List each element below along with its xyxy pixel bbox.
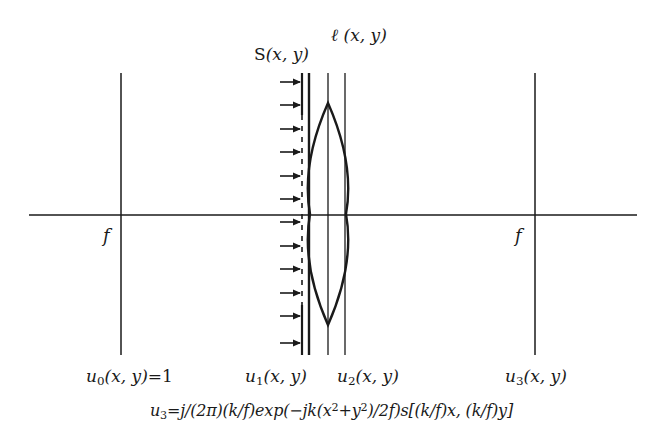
formula-sup1: 2 bbox=[332, 401, 339, 414]
source-label: S(x, y) bbox=[254, 46, 309, 63]
plane-lines bbox=[121, 73, 535, 355]
formula-part3: )/2f)s[(k/f)x, (k/f)y] bbox=[367, 401, 513, 420]
focal-length-right-label: f bbox=[515, 227, 522, 245]
u3-base: u bbox=[505, 366, 516, 386]
u1-label: u1(x, y) bbox=[245, 368, 307, 388]
lens-fourier-diagram: S(x, y) ℓ (x, y) f f u0(x, y)=1 u1(x, y)… bbox=[0, 0, 656, 435]
lens-label: ℓ (x, y) bbox=[331, 27, 387, 44]
u2-sub: 2 bbox=[348, 374, 356, 388]
u0-label: u0(x, y)=1 bbox=[86, 368, 173, 388]
u3-sub: 3 bbox=[516, 374, 524, 388]
lens-symbol: ℓ bbox=[331, 25, 338, 45]
lens-args: (x, y) bbox=[344, 25, 387, 45]
focal-length-left-label: f bbox=[103, 227, 110, 245]
formula-lhs: u bbox=[150, 401, 160, 420]
fourier-formula: u3=j/(2π)(k/f)exp(−jk(x2+y2)/2f)s[(k/f)x… bbox=[150, 402, 513, 421]
u1-args: (x, y) bbox=[264, 366, 307, 386]
u1-sub: 1 bbox=[256, 374, 264, 388]
u2-base: u bbox=[337, 366, 348, 386]
u3-label: u3(x, y) bbox=[505, 368, 567, 388]
incident-wave-arrows bbox=[280, 82, 300, 343]
formula-lhs-sub: 3 bbox=[160, 409, 167, 422]
u0-sub: 0 bbox=[97, 374, 105, 388]
formula-part2: +y bbox=[339, 401, 361, 420]
u2-label: u2(x, y) bbox=[337, 368, 399, 388]
formula-part1: =j/(2π)(k/f)exp(−jk(x bbox=[167, 401, 332, 420]
source-args: (x, y) bbox=[266, 44, 309, 64]
source-symbol: S bbox=[254, 44, 266, 64]
u1-base: u bbox=[245, 366, 256, 386]
u2-args: (x, y) bbox=[356, 366, 399, 386]
u0-value: =1 bbox=[148, 366, 173, 386]
u3-args: (x, y) bbox=[524, 366, 567, 386]
u0-args: (x, y) bbox=[105, 366, 148, 386]
u0-base: u bbox=[86, 366, 97, 386]
